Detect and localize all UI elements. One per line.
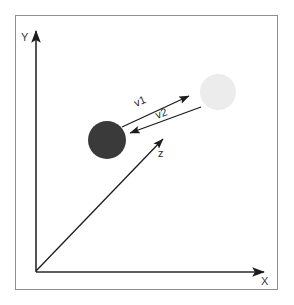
figure-border	[16, 16, 278, 290]
diagram-canvas: Y X v1 v2 z	[0, 0, 294, 305]
y-axis-label: Y	[21, 31, 29, 43]
vector-z-label: z	[158, 147, 164, 159]
dark-particle	[88, 121, 126, 159]
light-particle	[200, 74, 236, 110]
x-axis-label: X	[261, 275, 269, 287]
vector-diagram-figure: Y X v1 v2 z	[0, 0, 294, 305]
